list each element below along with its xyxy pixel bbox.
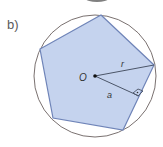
pentagon-diagram: O r a — [0, 0, 163, 147]
center-point — [93, 74, 97, 78]
center-label: O — [79, 72, 87, 83]
apothem-label: a — [107, 90, 112, 100]
